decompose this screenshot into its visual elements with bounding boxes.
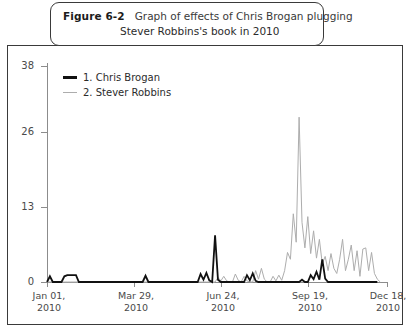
figure-caption-text: Figure 6-2Graph of effects of Chris Brog… bbox=[63, 9, 315, 39]
figure-caption-box: Figure 6-2Graph of effects of Chris Brog… bbox=[50, 2, 324, 46]
caption-line-1: Figure 6-2Graph of effects of Chris Brog… bbox=[63, 9, 315, 24]
figure-number: Figure 6-2 bbox=[63, 10, 125, 22]
caption-line-1-text: Graph of effects of Chris Brogan pluggin… bbox=[125, 10, 353, 22]
chart-plot-area bbox=[0, 0, 410, 334]
caption-line-2: Stever Robbins's book in 2010 bbox=[63, 24, 315, 39]
figure-container: Figure 6-2Graph of effects of Chris Brog… bbox=[0, 0, 410, 334]
series-line-chris-brogan bbox=[47, 235, 377, 282]
